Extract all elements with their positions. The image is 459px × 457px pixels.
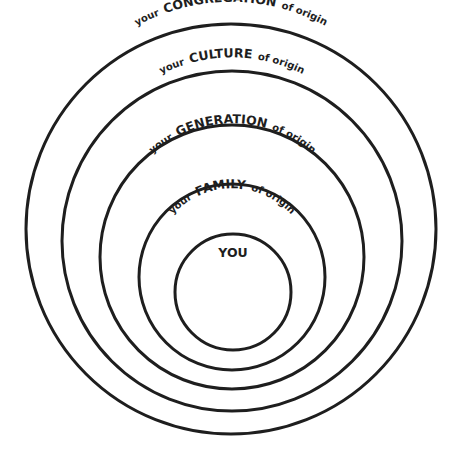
label-you: YOU: [217, 245, 247, 260]
label-generation: your GENERATION of origin: [147, 111, 319, 155]
concentric-diagram: your CONGREGATION of origin your CULTURE…: [0, 0, 459, 457]
label-family: your FAMILY of origin: [166, 175, 297, 216]
ring-family: [139, 184, 325, 370]
ring-congregation: [26, 24, 436, 434]
